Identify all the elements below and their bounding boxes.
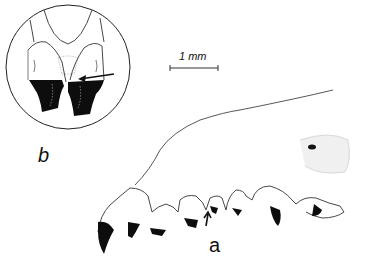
scale-bar-label: 1 mm bbox=[179, 50, 207, 62]
arrow-icon bbox=[204, 212, 211, 226]
jaw-illustration bbox=[0, 0, 365, 264]
scale-bar bbox=[170, 65, 218, 71]
jaw-a bbox=[98, 90, 349, 254]
panel-label-a: a bbox=[209, 234, 220, 257]
inset-b bbox=[6, 5, 130, 129]
panel-label-b: b bbox=[38, 144, 49, 167]
